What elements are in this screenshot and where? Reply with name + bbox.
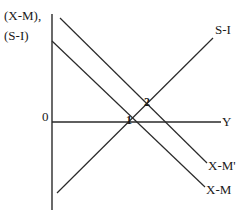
s-i-line	[57, 38, 213, 193]
origin-label: 0	[42, 109, 49, 124]
x-m-prime-line	[60, 18, 207, 163]
y-axis-label-line2: (S-I)	[4, 28, 29, 43]
diagram-canvas: (X-M), (S-I) 0 Y S-I X-M X-M' 1 2	[0, 0, 244, 213]
x-axis-label: Y	[222, 114, 232, 129]
x-m-label: X-M	[206, 182, 232, 197]
point-2-label: 2	[144, 95, 150, 109]
point-1-label: 1	[126, 113, 132, 127]
s-i-label: S-I	[215, 22, 231, 37]
x-m-prime-label: X-M'	[208, 158, 236, 173]
y-axis-label-line1: (X-M),	[4, 8, 41, 23]
